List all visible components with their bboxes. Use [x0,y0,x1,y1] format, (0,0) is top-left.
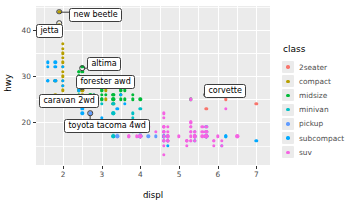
x-tick-label: 5 [177,170,182,179]
legend-item-label: minivan [299,105,329,114]
data-point-midsize [100,93,103,96]
data-point-suv [162,144,165,147]
gridline [160,6,161,165]
data-point-subcompact [123,102,126,105]
data-point-subcompact [46,61,49,64]
data-point-subcompact [61,65,64,68]
legend-dot-icon [286,80,289,83]
data-point-midsize [119,98,122,101]
x-tick-mark [102,166,103,169]
data-point-minivan [100,102,103,105]
data-point-suv [162,139,165,142]
data-point-suv [162,130,165,133]
x-tick-label: 2 [61,170,66,179]
data-point-compact [104,98,107,101]
data-point-suv [216,135,219,138]
y-tick-mark [33,122,36,123]
data-point-suv [154,130,157,133]
data-point-suv [204,125,207,128]
data-point-suv [220,139,223,142]
data-point-suv [162,153,165,156]
gridline [36,76,270,77]
data-point-suv [212,139,215,142]
x-tick-mark [63,166,64,169]
data-point-midsize [123,98,126,101]
x-tick-mark [256,166,257,169]
data-point-minivan [131,112,134,115]
point-label-forester-awd: forester awd [76,75,135,89]
data-point-suv [185,139,188,142]
legend-item-suv[interactable]: suv [282,145,354,159]
data-point-compact [61,51,64,54]
legend-dot-icon [286,122,289,125]
legend-item-compact[interactable]: compact [282,74,354,88]
x-tick-mark [218,166,219,169]
x-tick-mark [140,166,141,169]
data-point-suv [193,139,196,142]
data-point-compact [61,56,64,59]
data-point-subcompact [119,93,122,96]
data-point-pickup [146,135,149,138]
data-point-suv [189,130,192,133]
x-axis-title: displ [36,190,270,200]
data-point-compact [61,88,64,91]
x-tick-label: 6 [215,170,220,179]
data-point-suv [166,135,169,138]
data-point-midsize [104,93,107,96]
data-point-subcompact [224,135,227,138]
data-point-suv [166,139,169,142]
data-point-subcompact [61,79,64,82]
data-point-compact [61,75,64,78]
data-point-suv [135,135,138,138]
legend-key-swatch [282,146,294,158]
data-point-midsize [112,98,115,101]
x-tick-mark [179,166,180,169]
data-point-suv [185,144,188,147]
y-tick-label: 40 [12,26,31,35]
point-label-altima: altima [87,57,121,71]
data-point-suv [193,135,196,138]
legend-key-swatch [282,61,294,73]
legend-item-label: pickup [299,119,323,128]
legend-item-subcompact[interactable]: subcompact [282,131,354,145]
data-point-suv [189,121,192,124]
data-point-midsize [100,98,103,101]
point-label-caravan-2wd: caravan 2wd [39,94,99,108]
data-point-suv [166,130,169,133]
data-point-suv [201,125,204,128]
legend-title: class [283,44,354,54]
data-point-subcompact [54,65,57,68]
data-point-subcompact [46,79,49,82]
data-point-suv [189,139,192,142]
data-point-suv [162,112,165,115]
point-label-toyota-tacoma-4wd: toyota tacoma 4wd [64,119,150,133]
y-tick-label: 30 [12,72,31,81]
data-point-pickup [154,135,157,138]
data-point-suv [162,125,165,128]
data-point-suv [235,135,238,138]
legend-item-label: subcompact [299,134,344,143]
data-point-pickup [116,135,119,138]
legend-key-swatch [282,75,294,87]
data-point-compact [61,70,64,73]
data-point-subcompact [46,65,49,68]
legend-item-2seater[interactable]: 2seater [282,60,354,74]
legend-dot-icon [286,94,289,97]
data-point-suv [204,130,207,133]
legend-item-minivan[interactable]: minivan [282,103,354,117]
y-tick-mark [33,76,36,77]
gridline [36,53,270,54]
data-point-midsize [131,93,134,96]
legend: class 2seatercompactmidsizeminivanpickup… [282,44,354,159]
legend-dot-icon [286,136,289,139]
legend-item-pickup[interactable]: pickup [282,117,354,131]
legend-key-swatch [282,118,294,130]
legend-item-label: compact [299,77,331,86]
gridline [198,6,199,165]
legend-item-midsize[interactable]: midsize [282,88,354,102]
y-tick-label: 20 [12,118,31,127]
data-point-suv [193,130,196,133]
data-point-suv [177,135,180,138]
data-point-midsize [112,93,115,96]
data-point-suv [189,125,192,128]
